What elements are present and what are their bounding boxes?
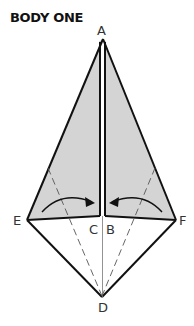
label-c: C <box>89 222 98 237</box>
label-b: B <box>106 222 115 237</box>
origami-diagram: A E F C B D <box>0 0 194 326</box>
label-e: E <box>13 213 21 228</box>
label-d: D <box>98 300 108 315</box>
label-f: F <box>179 213 186 228</box>
label-a: A <box>97 23 106 38</box>
